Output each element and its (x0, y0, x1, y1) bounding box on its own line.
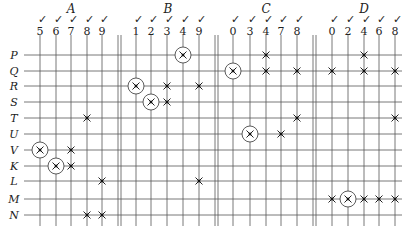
circled-cross-icon (32, 142, 48, 158)
row-label-U: U (9, 128, 19, 141)
circled-cross-icon (48, 158, 64, 174)
column-label: 4 (263, 25, 270, 38)
circled-cross-icon (242, 126, 258, 142)
column-label: 7 (278, 25, 285, 38)
column-label: 5 (37, 25, 44, 38)
column-label: 3 (164, 25, 171, 38)
grid-diagram: A✓5✓6✓7✓8✓9B✓1✓2✓3✓4✓9C✓0✓3✓4✓7✓8D✓0✓2✓4… (0, 0, 412, 236)
column-label: 7 (68, 25, 75, 38)
column-label: 3 (247, 25, 254, 38)
column-label: 9 (196, 25, 203, 38)
column-labels: A✓5✓6✓7✓8✓9B✓1✓2✓3✓4✓9C✓0✓3✓4✓7✓8D✓0✓2✓4… (37, 2, 402, 38)
column-label: 8 (84, 25, 91, 38)
row-label-M: M (7, 193, 20, 206)
row-label-L: L (9, 175, 17, 188)
column-label: 8 (294, 25, 301, 38)
row-label-N: N (8, 209, 19, 222)
circled-cross-icon (225, 63, 241, 79)
column-label: 4 (180, 25, 187, 38)
circled-cross-icon (340, 191, 356, 207)
row-label-P: P (9, 49, 18, 62)
row-labels: PQRSTUVKLMN (7, 49, 20, 222)
column-label: 0 (230, 25, 237, 38)
circled-cross-icon (143, 94, 159, 110)
column-label: 0 (329, 25, 336, 38)
row-label-S: S (10, 96, 18, 109)
column-label: 9 (99, 25, 106, 38)
column-label: 1 (133, 25, 140, 38)
row-label-R: R (9, 80, 18, 93)
column-label: 2 (345, 25, 352, 38)
circled-cross-icon (128, 78, 144, 94)
row-label-T: T (10, 112, 19, 125)
row-label-V: V (10, 144, 19, 157)
row-label-Q: Q (9, 65, 18, 78)
column-label: 8 (392, 25, 399, 38)
circled-cross-icon (175, 47, 191, 63)
column-label: 2 (148, 25, 155, 38)
column-label: 6 (376, 25, 383, 38)
column-label: 6 (53, 25, 60, 38)
row-label-K: K (9, 160, 19, 173)
column-label: 4 (361, 25, 368, 38)
